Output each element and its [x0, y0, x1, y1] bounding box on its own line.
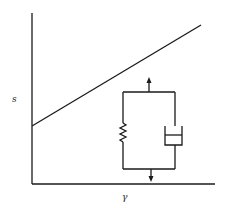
x-axis-label: γ	[122, 192, 128, 202]
y-axis-label: s	[12, 94, 17, 104]
down-arrow-icon	[149, 176, 154, 182]
kelvin-voigt-model	[120, 77, 182, 182]
diagram-canvas: s γ	[0, 0, 228, 213]
spring-icon	[120, 123, 126, 142]
up-arrow-icon	[147, 77, 152, 83]
